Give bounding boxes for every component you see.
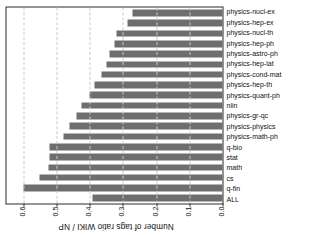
x-axis-category-label-text: physics-hep-ph	[226, 39, 273, 46]
y-axis-tick-label: 0.6	[17, 206, 26, 216]
bar	[39, 174, 222, 181]
plot-area	[5, 6, 223, 204]
x-axis-category-label-text: q-bio	[226, 143, 242, 150]
bar	[76, 112, 222, 119]
x-axis-category-label-text: stat	[226, 154, 237, 161]
bar	[109, 50, 222, 57]
bar	[116, 30, 222, 37]
bar	[94, 81, 222, 88]
bar	[48, 164, 222, 171]
bar	[92, 194, 222, 201]
x-axis-category-label: physics-hep-lat	[223, 60, 331, 67]
x-axis-category-label-text: ALL	[226, 195, 238, 202]
gridline	[89, 7, 90, 203]
x-axis-category-label: q-bio	[223, 143, 331, 150]
x-axis-category-label-text: physics-cond-mat	[226, 70, 281, 77]
x-axis-category-label: physics-cond-mat	[223, 71, 331, 78]
chart-screenshot: Number of tags ratio WIKI / NP 0.00.10.2…	[0, 0, 334, 235]
x-axis-category-label: physics-gr-qc	[223, 112, 331, 119]
bar	[69, 122, 222, 129]
bar	[81, 102, 222, 109]
gridline	[56, 7, 57, 203]
x-axis-category-label-text: cs	[226, 174, 233, 181]
x-axis-category-label-text: physics-math-ph	[226, 133, 277, 140]
y-axis-tick-mark	[89, 203, 90, 206]
x-axis-category-label: physics-math-ph	[223, 133, 331, 140]
gridline	[156, 7, 157, 203]
x-axis-category-label-text: physics-hep-th	[226, 81, 272, 88]
y-axis-tick-label: 0.2	[150, 206, 159, 216]
bar	[114, 40, 222, 47]
x-axis-category-label: q-fin	[223, 185, 331, 192]
bar	[49, 143, 222, 150]
x-axis-category-label: physics-quant-ph	[223, 91, 331, 98]
y-axis-tick-mark	[56, 203, 57, 206]
y-axis-tick-label: 0.1	[183, 206, 192, 216]
x-axis-category-label-text: physics-astro-ph	[226, 50, 277, 57]
x-axis-category-label: stat	[223, 154, 331, 161]
x-axis-category-label: physics-nucl-th	[223, 29, 331, 36]
x-axis-category-label-text: physics-nucl-th	[226, 29, 273, 36]
x-axis-category-label-text: math	[226, 164, 242, 171]
x-axis-category-labels: ALLq-fincsmathstatq-biophysics-math-phph…	[223, 6, 331, 204]
y-axis-tick-labels: 0.00.10.20.30.40.50.6	[0, 204, 230, 221]
x-axis-category-label: physics-astro-ph	[223, 50, 331, 57]
gridline	[122, 7, 123, 203]
x-axis-category-label-text: physics-gr-qc	[226, 112, 268, 119]
x-axis-category-label-text: physics-hep-ex	[226, 18, 273, 25]
bar	[101, 71, 222, 78]
bar	[132, 9, 222, 16]
y-axis-tick-mark	[189, 203, 190, 206]
y-axis-tick-label: 0.5	[50, 206, 59, 216]
x-axis-category-label: physics-hep-ph	[223, 39, 331, 46]
x-axis-category-label: nlin	[223, 102, 331, 109]
x-axis-category-label: cs	[223, 175, 331, 182]
x-axis-category-label: math	[223, 164, 331, 171]
y-axis-tick-mark	[23, 203, 24, 206]
x-axis-category-label: ALL	[223, 195, 331, 202]
x-axis-category-label-text: physics-physics	[226, 122, 275, 129]
x-axis-category-label-text: physics-quant-ph	[226, 91, 279, 98]
x-axis-category-label: physics-hep-ex	[223, 19, 331, 26]
bar	[63, 133, 223, 140]
y-axis-tick-label: 0.4	[84, 206, 93, 216]
x-axis-category-label-text: q-fin	[226, 185, 240, 192]
gridline	[189, 7, 190, 203]
x-axis-category-label: physics-physics	[223, 123, 331, 130]
y-axis-tick-label: 0.3	[117, 206, 126, 216]
bar	[127, 19, 222, 26]
x-axis-category-label-text: nlin	[226, 102, 237, 109]
x-axis-category-label: physics-nucl-ex	[223, 8, 331, 15]
bar	[49, 153, 222, 160]
x-axis-category-label-text: physics-nucl-ex	[226, 8, 274, 15]
gridline	[23, 7, 24, 203]
bar-chart-figure: Number of tags ratio WIKI / NP 0.00.10.2…	[0, 0, 334, 235]
y-axis-title-text: Number of tags ratio WIKI / NP	[57, 221, 172, 230]
y-axis-tick-mark	[122, 203, 123, 206]
y-axis-tick-mark	[156, 203, 157, 206]
x-axis-category-label: physics-hep-th	[223, 81, 331, 88]
x-axis-category-label-text: physics-hep-lat	[226, 60, 273, 67]
y-axis-tick-label: 0.0	[217, 206, 226, 216]
